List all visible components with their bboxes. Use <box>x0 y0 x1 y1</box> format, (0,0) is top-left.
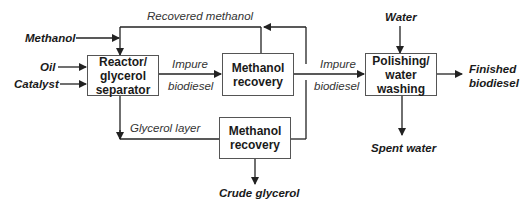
methanol-recovery-top-box: Methanol recovery <box>222 53 294 96</box>
methanol-input-label: Methanol <box>25 32 75 45</box>
recovered-methanol-label: Recovered methanol <box>147 10 253 23</box>
finished-biodiesel-label-1: Finished <box>469 63 516 76</box>
crude-glycerol-label: Crude glycerol <box>219 187 300 200</box>
oil-input-label: Oil <box>40 61 55 74</box>
catalyst-input-label: Catalyst <box>14 78 59 91</box>
reactor-glycerol-separator-box: Reactor/ glycerol separator <box>87 55 159 96</box>
water-input-label: Water <box>385 11 417 24</box>
spent-water-label: Spent water <box>371 142 436 155</box>
methanol-recovery-bottom-box: Methanol recovery <box>219 117 291 159</box>
glycerol-layer-label: Glycerol layer <box>130 122 200 135</box>
impure-biodiesel-2-bottom: biodiesel <box>314 80 359 93</box>
finished-biodiesel-label-2: biodiesel <box>469 77 519 90</box>
impure-biodiesel-1-top: Impure <box>172 58 208 71</box>
polishing-water-washing-box: Polishing/ water washing <box>365 53 437 96</box>
impure-biodiesel-1-bottom: biodiesel <box>168 80 213 93</box>
impure-biodiesel-2-top: Impure <box>320 58 356 71</box>
flow-lines <box>0 0 529 207</box>
